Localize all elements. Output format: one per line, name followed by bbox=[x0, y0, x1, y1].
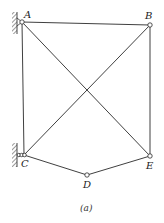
member-de bbox=[87, 156, 150, 175]
label-c: C bbox=[21, 158, 29, 169]
label-e: E bbox=[145, 160, 154, 171]
wall-support-c bbox=[12, 143, 17, 167]
label-d: D bbox=[82, 179, 91, 190]
node-d bbox=[85, 173, 89, 177]
wall-support-a bbox=[12, 12, 17, 34]
member-ab bbox=[22, 22, 150, 25]
node-c bbox=[23, 153, 27, 157]
member-ac bbox=[22, 22, 24, 155]
node-a bbox=[20, 20, 24, 24]
member-cd bbox=[24, 155, 87, 175]
node-e bbox=[148, 154, 152, 158]
node-b bbox=[148, 23, 152, 27]
figure-caption: (a) bbox=[80, 203, 93, 213]
truss-diagram: A B C D E (a) bbox=[0, 0, 164, 223]
truss-members bbox=[22, 22, 150, 175]
member-ae bbox=[22, 22, 150, 156]
label-b: B bbox=[144, 10, 152, 21]
label-a: A bbox=[23, 9, 31, 20]
